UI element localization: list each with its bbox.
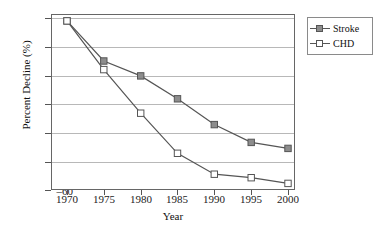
chart-page: Percent Decline (%) 0 –10 –20 –30 –40 –5… (0, 0, 377, 240)
legend: Stroke CHD (307, 17, 373, 55)
legend-item-chd[interactable]: CHD (310, 36, 369, 51)
legend-label-chd: CHD (333, 39, 354, 49)
data-point-marker[interactable] (138, 110, 144, 116)
series-stroke (64, 18, 291, 152)
data-point-marker[interactable] (248, 139, 254, 145)
series-line (67, 21, 288, 148)
data-point-marker[interactable] (138, 73, 144, 79)
data-point-marker[interactable] (211, 171, 217, 177)
data-point-marker[interactable] (174, 96, 180, 102)
data-point-marker[interactable] (285, 180, 291, 186)
legend-label-stroke: Stroke (333, 24, 359, 34)
data-point-marker[interactable] (211, 121, 217, 127)
legend-marker-hollow-square-icon (310, 38, 330, 49)
legend-marker-filled-square-icon (310, 23, 330, 34)
data-point-marker[interactable] (248, 175, 254, 181)
data-point-marker[interactable] (101, 66, 107, 72)
legend-item-stroke[interactable]: Stroke (310, 21, 369, 36)
data-point-marker[interactable] (64, 18, 70, 24)
data-point-marker[interactable] (174, 150, 180, 156)
data-point-marker[interactable] (101, 58, 107, 64)
data-point-marker[interactable] (285, 145, 291, 151)
